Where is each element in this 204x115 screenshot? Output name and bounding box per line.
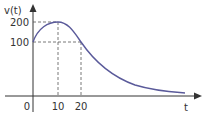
origin-label: 0 — [24, 101, 30, 112]
chart-canvas: v(t) 200 100 0 10 20 t — [0, 0, 204, 115]
y-axis-label: v(t) — [4, 5, 22, 16]
x-axis-arrow-icon — [194, 93, 202, 100]
x-axis-label: t — [184, 102, 188, 113]
y-tick-100: 100 — [10, 37, 29, 48]
x-tick-10: 10 — [52, 101, 65, 112]
y-axis-arrow-icon — [30, 4, 37, 12]
y-tick-200: 200 — [10, 17, 29, 28]
v-t-curve — [33, 22, 185, 93]
x-tick-20: 20 — [75, 101, 88, 112]
